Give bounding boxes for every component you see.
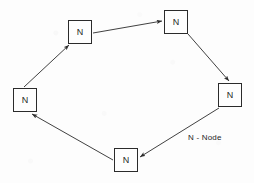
- legend-label: N - Node: [188, 133, 222, 142]
- node-right[interactable]: N: [218, 83, 242, 107]
- node-label: N: [77, 28, 84, 37]
- node-label: N: [173, 18, 180, 27]
- node-left[interactable]: N: [13, 88, 37, 112]
- node-label: N: [22, 96, 29, 105]
- diagram-canvas: NNNNN N - Node: [0, 0, 254, 183]
- node-bottom[interactable]: N: [114, 148, 138, 172]
- edge-bottom-to-left: [32, 114, 113, 160]
- edge-topleft-to-topright: [93, 21, 162, 33]
- node-top-left[interactable]: N: [68, 20, 92, 44]
- node-label: N: [123, 156, 130, 165]
- edge-left-to-topleft: [24, 45, 69, 87]
- edge-topright-to-right: [188, 34, 229, 81]
- node-top-right[interactable]: N: [164, 10, 188, 34]
- node-label: N: [227, 91, 234, 100]
